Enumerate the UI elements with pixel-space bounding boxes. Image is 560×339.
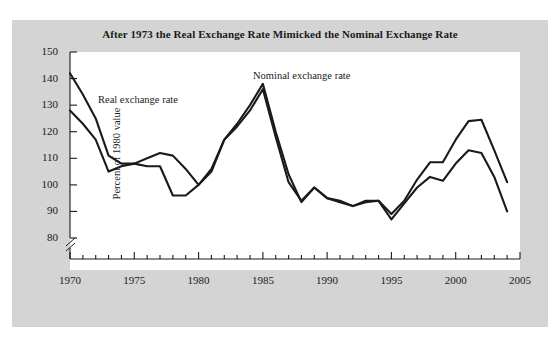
x-tick-1985: 1985: [241, 274, 285, 286]
y-tick-80: 80: [18, 232, 58, 243]
x-tick-2000: 2000: [434, 274, 478, 286]
y-tick-120: 120: [18, 126, 58, 137]
y-tick-100: 100: [18, 179, 58, 190]
x-tick-marks: [70, 252, 520, 259]
x-tick-1970: 1970: [48, 274, 92, 286]
x-tick-1990: 1990: [305, 274, 349, 286]
plot-wrapper: Percent of 1980 value 150 140 130 120 11…: [70, 52, 520, 292]
chart-title: After 1973 the Real Exchange Rate Mimick…: [12, 28, 548, 40]
y-tick-140: 140: [18, 73, 58, 84]
y-tick-130: 130: [18, 99, 58, 110]
y-tick-110: 110: [18, 152, 58, 163]
x-tick-2005: 2005: [498, 274, 542, 286]
line-real-exchange-rate: [70, 89, 507, 219]
x-tick-1995: 1995: [369, 274, 413, 286]
x-tick-1980: 1980: [177, 274, 221, 286]
chart-canvas: [70, 52, 520, 270]
y-tick-150: 150: [18, 46, 58, 57]
y-tick-90: 90: [18, 205, 58, 216]
figure-panel: After 1973 the Real Exchange Rate Mimick…: [12, 20, 548, 327]
line-nominal-exchange-rate: [70, 73, 507, 214]
x-tick-1975: 1975: [112, 274, 156, 286]
